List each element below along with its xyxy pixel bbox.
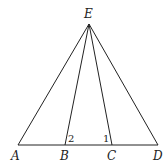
point-label-e: E [83, 7, 93, 21]
point-label-a: A [10, 149, 20, 163]
angle-label-1: 1 [103, 133, 109, 144]
point-label-d: D [152, 149, 163, 163]
geometry-diagram: E A B C D 2 1 [0, 0, 167, 166]
angle-label-2: 2 [68, 133, 74, 144]
point-label-b: B [59, 149, 69, 163]
segment-ea [18, 24, 89, 145]
point-label-c: C [107, 149, 116, 163]
segment-eb [65, 24, 89, 145]
segment-ed [89, 24, 158, 145]
segment-ec [89, 24, 112, 145]
